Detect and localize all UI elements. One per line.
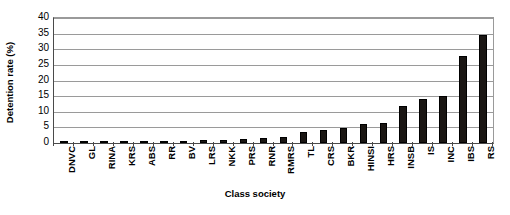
- y-axis-tick-label: 25: [38, 59, 49, 69]
- bar: [479, 35, 487, 143]
- y-axis-tick-label: 0: [43, 137, 49, 147]
- y-axis-tick-label: 35: [38, 28, 49, 38]
- y-axis-tick-label: 5: [43, 121, 49, 131]
- y-axis-tick-label: 30: [38, 43, 49, 53]
- bar: [360, 124, 368, 143]
- y-axis-tick-label: 20: [38, 75, 49, 85]
- y-axis-title-label: Detention rate (%): [5, 41, 16, 122]
- y-axis-tick-label: 15: [38, 90, 49, 100]
- x-axis-title: Class society: [0, 188, 510, 199]
- bar: [419, 99, 427, 143]
- detention-rate-bar-chart: Detention rate (%) 4035302520151050 DNVC…: [0, 0, 510, 215]
- y-axis-tick-label: 10: [38, 106, 49, 116]
- bar: [439, 96, 447, 143]
- y-axis-title: Detention rate (%): [0, 18, 20, 146]
- x-axis-tick-label: RS: [486, 146, 510, 186]
- y-axis-tick-labels: 4035302520151050: [20, 12, 52, 148]
- bar: [459, 56, 467, 144]
- plot-area: [53, 17, 494, 144]
- y-axis-tick-label: 40: [38, 12, 49, 22]
- x-axis-tick-labels: DNVCGLRINAKRSABSRRBVLRSNKKPRSRNRRMRSTLCR…: [53, 146, 493, 186]
- bar: [380, 123, 388, 143]
- bar: [340, 128, 348, 143]
- bars-layer: [54, 18, 493, 143]
- bar: [399, 106, 407, 144]
